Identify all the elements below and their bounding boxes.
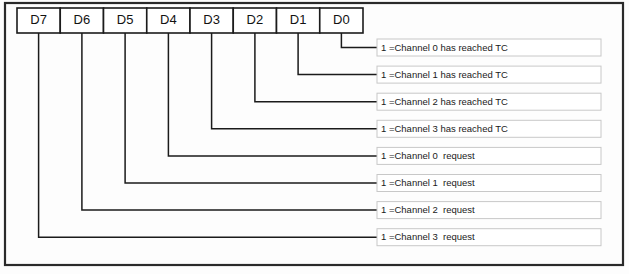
bit-cell-label: D7 — [30, 12, 47, 27]
leader-line-d2 — [255, 33, 377, 102]
description-text: 1 =Channel 0 request — [381, 150, 475, 161]
leader-line-d1 — [298, 33, 377, 75]
register-bitfield-diagram: D7D6D5D4D3D2D1D0 1 =Channel 0 has reache… — [0, 0, 629, 274]
leader-line-d7 — [39, 33, 377, 237]
bit-description-d1: 1 =Channel 1 has reached TC — [377, 66, 601, 83]
bit-cell-d3: D3 — [190, 8, 233, 33]
bit-cell-d6: D6 — [60, 8, 103, 33]
label-box-column: 1 =Channel 0 has reached TC1 =Channel 1 … — [377, 39, 601, 246]
bit-box-row: D7D6D5D4D3D2D1D0 — [17, 8, 363, 33]
bit-cell-d0: D0 — [320, 8, 363, 33]
bit-cell-label: D6 — [74, 12, 91, 27]
bit-cell-label: D2 — [247, 12, 264, 27]
bit-description-d6: 1 =Channel 2 request — [377, 202, 601, 219]
bit-cell-label: D4 — [160, 12, 177, 27]
bit-description-d4: 1 =Channel 0 request — [377, 147, 601, 164]
description-text: 1 =Channel 2 has reached TC — [381, 96, 508, 107]
leader-line-d5 — [125, 33, 377, 183]
leader-line-d4 — [168, 33, 377, 156]
bit-cell-d2: D2 — [233, 8, 276, 33]
description-text: 1 =Channel 3 has reached TC — [381, 123, 508, 134]
bit-description-d2: 1 =Channel 2 has reached TC — [377, 93, 601, 110]
bit-description-d5: 1 =Channel 1 request — [377, 175, 601, 192]
description-text: 1 =Channel 3 request — [381, 231, 475, 242]
bit-cell-label: D0 — [333, 12, 350, 27]
bit-description-d3: 1 =Channel 3 has reached TC — [377, 120, 601, 137]
description-text: 1 =Channel 1 has reached TC — [381, 69, 508, 80]
bit-cell-label: D5 — [117, 12, 134, 27]
bit-cell-d4: D4 — [147, 8, 190, 33]
bit-description-d0: 1 =Channel 0 has reached TC — [377, 39, 601, 56]
bit-cell-label: D3 — [203, 12, 220, 27]
diagram-canvas: D7D6D5D4D3D2D1D0 1 =Channel 0 has reache… — [0, 0, 629, 274]
leader-lines — [39, 33, 377, 237]
bit-description-d7: 1 =Channel 3 request — [377, 229, 601, 246]
bit-cell-d5: D5 — [104, 8, 147, 33]
bit-cell-d1: D1 — [277, 8, 320, 33]
leader-line-d0 — [341, 33, 377, 48]
description-text: 1 =Channel 2 request — [381, 204, 475, 215]
bit-cell-d7: D7 — [17, 8, 60, 33]
bit-cell-label: D1 — [290, 12, 307, 27]
description-text: 1 =Channel 1 request — [381, 177, 475, 188]
description-text: 1 =Channel 0 has reached TC — [381, 42, 508, 53]
